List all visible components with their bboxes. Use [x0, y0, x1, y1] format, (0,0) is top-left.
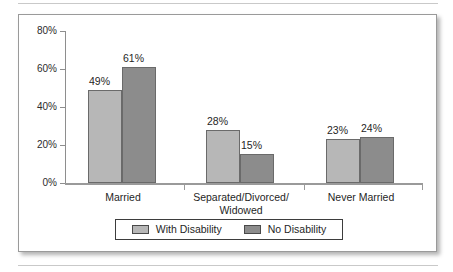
y-tick-60 [60, 69, 65, 70]
y-axis-label-40: 40% [23, 102, 57, 112]
x-group-separator-2 [304, 185, 305, 190]
bar-2-1 [360, 137, 394, 183]
x-group-separator-1 [184, 185, 185, 190]
x-axis-baseline [65, 183, 423, 185]
bar-value-label-1-0: 28% [207, 116, 228, 127]
legend-label-no-disability: No Disability [268, 224, 326, 235]
legend-swatch-icon-with-disability [132, 225, 149, 234]
bar-2-0 [326, 139, 360, 183]
page-rule-bottom [18, 265, 438, 266]
y-tick-80 [60, 31, 65, 32]
bar-value-label-1-1: 15% [241, 140, 262, 151]
x-category-label-2: Never Married [291, 191, 431, 204]
legend-item-with-disability: With Disability [132, 224, 222, 235]
y-axis-label-60: 60% [23, 64, 57, 74]
bar-1-1 [240, 154, 274, 183]
y-tick-40 [60, 107, 65, 108]
bar-value-label-2-0: 23% [327, 125, 348, 136]
page-rule-top [18, 3, 438, 4]
y-axis-line [65, 31, 66, 184]
bar-0-1 [122, 67, 156, 183]
bar-1-0 [206, 130, 240, 183]
bar-value-label-0-1: 61% [123, 53, 144, 64]
chart-legend: With Disability No Disability [115, 219, 343, 240]
bar-0-0 [88, 90, 122, 183]
legend-item-no-disability: No Disability [244, 224, 326, 235]
y-tick-20 [60, 145, 65, 146]
figure-panel: 80% 60% 40% 20% 0% 49%28%23%61%15%24%Mar… [18, 14, 437, 252]
bar-chart-plot: 80% 60% 40% 20% 0% 49%28%23%61%15%24%Mar… [19, 15, 438, 253]
y-axis-label-20: 20% [23, 140, 57, 150]
bar-value-label-2-1: 24% [361, 123, 382, 134]
y-axis-label-80: 80% [23, 26, 57, 36]
x-category-label-1: Separated/Divorced/Widowed [171, 191, 311, 217]
y-axis-label-0: 0% [23, 178, 57, 188]
bar-value-label-0-0: 49% [89, 76, 110, 87]
legend-swatch-icon-no-disability [244, 225, 261, 234]
x-axis-end-tick [422, 185, 423, 190]
y-tick-0 [60, 183, 65, 184]
legend-label-with-disability: With Disability [156, 224, 222, 235]
